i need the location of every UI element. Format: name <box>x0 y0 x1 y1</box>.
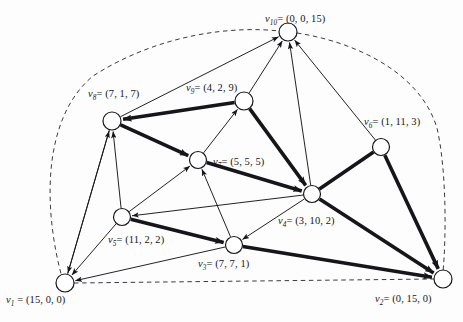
node-label-v1: v1 = (15, 0, 0) <box>6 294 65 308</box>
graph-edge <box>290 42 311 185</box>
node-label-v9: v9= (4, 2, 9) <box>186 82 237 96</box>
graph-node-v1[interactable] <box>56 274 74 292</box>
graph-node-v6[interactable] <box>373 139 390 156</box>
node-label-v7: v7= (5, 5, 5) <box>213 156 264 170</box>
node-label-v10: v10= (0, 0, 15) <box>265 13 325 27</box>
graph-edge <box>121 125 189 156</box>
graph-figure: v1 = (15, 0, 0)v2= (0, 15, 0)v3= (7, 7, … <box>0 0 463 322</box>
graph-edge <box>123 102 235 119</box>
graph-node-v2[interactable] <box>434 270 452 288</box>
node-label-v4: v4= (3, 10, 2) <box>278 215 335 229</box>
node-label-v6: v6= (1, 11, 3) <box>364 116 420 130</box>
node-label-v3: v3= (7, 7, 1) <box>198 258 249 272</box>
node-label-v2: v2= (0, 15, 0) <box>375 293 432 307</box>
graph-edge <box>243 246 432 277</box>
graph-edge <box>385 155 438 269</box>
graph-edge <box>250 109 306 186</box>
graph-edge <box>68 130 109 273</box>
graph-edge <box>319 152 373 189</box>
graph-edge <box>72 224 116 275</box>
node-label-v8: v8= (7, 1, 7) <box>88 88 139 102</box>
graph-edge <box>129 166 190 212</box>
graph-node-v5[interactable] <box>114 209 131 226</box>
graph-node-v7[interactable] <box>190 152 207 169</box>
graph-edge <box>204 109 238 153</box>
node-label-v5: v5= (11, 2, 2) <box>108 234 164 248</box>
hull-bottom-edge <box>74 279 434 283</box>
graph-edge <box>120 37 278 117</box>
graph-node-v4[interactable] <box>304 186 321 203</box>
graph-edge <box>113 132 121 209</box>
graph-edge <box>202 169 231 236</box>
graph-node-v3[interactable] <box>226 237 243 254</box>
graph-node-v9[interactable] <box>235 92 253 110</box>
graph-node-v8[interactable] <box>103 112 121 130</box>
graph-edge <box>132 195 303 216</box>
